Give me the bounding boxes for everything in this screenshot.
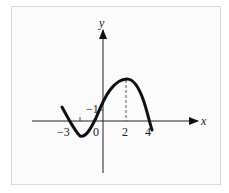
- tick-label-2: 2: [122, 125, 128, 139]
- x-axis-label: x: [200, 114, 207, 128]
- tick-label-0: 0: [93, 125, 99, 139]
- tick-label-4: 4: [145, 125, 151, 139]
- tick-label-neg3: −3: [57, 125, 70, 139]
- function-curve: [62, 79, 152, 136]
- y-axis-label: y: [98, 16, 105, 30]
- function-graph: y x −3 0 2 4 −1: [0, 0, 229, 193]
- y-tick-label-1: −1: [86, 102, 99, 116]
